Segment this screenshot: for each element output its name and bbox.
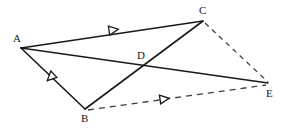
vertex-label-C: C [199, 5, 206, 16]
marker-be-arrow-icon [159, 94, 169, 104]
vertex-label-A: A [13, 33, 21, 44]
segment-BE [88, 85, 266, 110]
geometry-canvas [0, 0, 287, 134]
geometry-figure: A B C D E [0, 0, 287, 134]
vertex-label-E: E [266, 88, 273, 99]
segment-AC [21, 21, 203, 48]
vertex-label-B: B [81, 113, 88, 124]
segment-BC [85, 21, 203, 109]
vertex-label-D: D [137, 50, 145, 61]
segment-CE [205, 23, 268, 82]
